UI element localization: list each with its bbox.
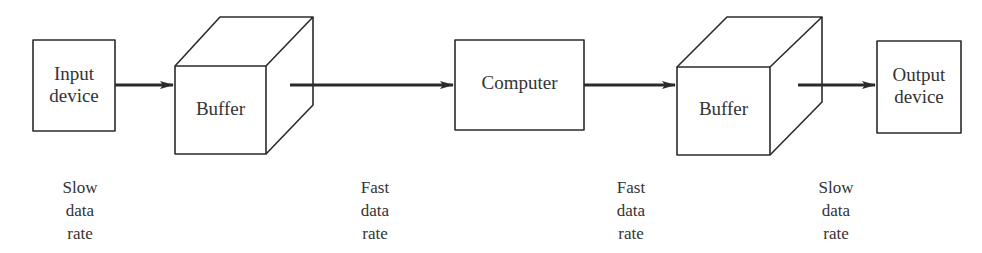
output-device-label: Output device <box>877 64 961 108</box>
rate-label-1-line3: rate <box>40 222 120 245</box>
input-device-label: Input device <box>33 63 115 107</box>
rate-label-2-line3: rate <box>335 222 415 245</box>
computer-text: Computer <box>455 72 584 94</box>
rate-label-2-line2: data <box>335 199 415 222</box>
rate-label-4-line3: rate <box>796 222 876 245</box>
buffer-1-label: Buffer <box>175 98 266 120</box>
rate-label-2: Fast data rate <box>335 176 415 245</box>
rate-label-1: Slow data rate <box>40 176 120 245</box>
rate-label-3: Fast data rate <box>591 176 671 245</box>
rate-label-4: Slow data rate <box>796 176 876 245</box>
rate-label-1-line1: Slow <box>40 176 120 199</box>
buffer-2-label: Buffer <box>677 98 770 120</box>
rate-label-4-line1: Slow <box>796 176 876 199</box>
rate-label-1-line2: data <box>40 199 120 222</box>
rate-label-3-line1: Fast <box>591 176 671 199</box>
rate-label-3-line2: data <box>591 199 671 222</box>
input-device-line1: Input <box>33 63 115 85</box>
output-device-line1: Output <box>877 64 961 86</box>
buffer-2-text: Buffer <box>677 98 770 120</box>
buffer-1-text: Buffer <box>175 98 266 120</box>
rate-label-4-line2: data <box>796 199 876 222</box>
rate-label-2-line1: Fast <box>335 176 415 199</box>
computer-label: Computer <box>455 72 584 94</box>
rate-label-3-line3: rate <box>591 222 671 245</box>
output-device-line2: device <box>877 86 961 108</box>
input-device-line2: device <box>33 85 115 107</box>
